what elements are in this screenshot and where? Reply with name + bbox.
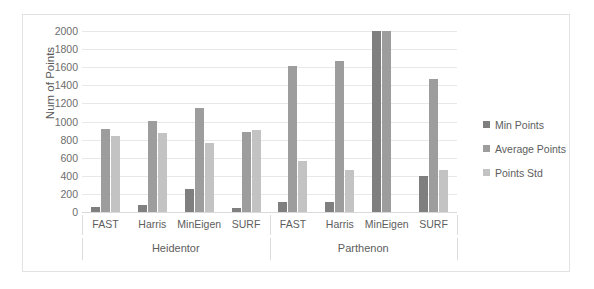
category-label: SURF	[410, 218, 457, 230]
group-label: Parthenon	[270, 242, 458, 254]
bar-group	[82, 31, 129, 212]
category-label: Harris	[316, 218, 363, 230]
y-axis-tick-labels: 2000180016001400120010008006004002000	[33, 31, 78, 212]
bar-group	[176, 31, 223, 212]
y-axis-tick-label: 600	[38, 153, 78, 163]
group-label: Heidentor	[82, 242, 270, 254]
axis-group-separator	[457, 238, 458, 260]
y-axis-tick-label: 0	[38, 207, 78, 217]
bar	[419, 176, 428, 212]
bar-group	[316, 31, 363, 212]
bar	[288, 66, 297, 212]
bar	[148, 121, 157, 212]
bar-group	[129, 31, 176, 212]
bar	[185, 189, 194, 212]
category-axis-labels: FASTHarrisMinEigenSURFFASTHarrisMinEigen…	[82, 215, 457, 235]
y-axis-tick-label: 800	[38, 135, 78, 145]
y-axis-tick-label: 1800	[38, 44, 78, 54]
bar-group	[223, 31, 270, 212]
plot-area	[82, 31, 457, 212]
chart-frame: Num of Points 20001800160014001200100080…	[22, 14, 570, 272]
chart-legend: Min Points Average Points Points Std	[483, 119, 578, 191]
category-label: FAST	[82, 218, 129, 230]
category-label: MinEigen	[363, 218, 410, 230]
y-axis-tick-label: 400	[38, 171, 78, 181]
bar	[372, 31, 381, 212]
legend-item-points-std[interactable]: Points Std	[483, 167, 578, 178]
legend-label: Min Points	[495, 119, 544, 131]
y-axis-tick-label: 1600	[38, 62, 78, 72]
axis-group-separator	[270, 238, 271, 260]
bar-group	[270, 31, 317, 212]
legend-item-average-points[interactable]: Average Points	[483, 143, 578, 154]
legend-swatch-icon	[483, 145, 490, 152]
axis-tick-separator	[82, 215, 83, 235]
group-axis-labels: HeidentorParthenon	[82, 238, 457, 260]
bar	[138, 205, 147, 212]
y-axis-tick-label: 2000	[38, 26, 78, 36]
legend-label: Points Std	[495, 167, 543, 179]
bar	[252, 130, 261, 212]
legend-swatch-icon	[483, 169, 490, 176]
bar	[195, 108, 204, 212]
bar	[335, 61, 344, 212]
bar	[158, 133, 167, 212]
y-axis-tick-label: 200	[38, 189, 78, 199]
y-axis-tick-label: 1200	[38, 98, 78, 108]
scan-artifact-band	[0, 0, 594, 10]
bar	[205, 143, 214, 212]
bar-group	[410, 31, 457, 212]
legend-swatch-icon	[483, 121, 490, 128]
bar	[111, 136, 120, 212]
axis-tick-separator	[457, 215, 458, 235]
bar	[382, 31, 391, 212]
axis-tick-separator	[270, 215, 271, 235]
category-label: SURF	[223, 218, 270, 230]
bar	[278, 202, 287, 212]
y-axis-tick-label: 1000	[38, 117, 78, 127]
bar	[429, 79, 438, 212]
legend-label: Average Points	[495, 143, 566, 155]
x-axis-line	[82, 212, 457, 213]
bar	[242, 132, 251, 212]
category-label: Harris	[129, 218, 176, 230]
bar	[439, 170, 448, 212]
axis-group-separator	[82, 238, 83, 260]
legend-item-min-points[interactable]: Min Points	[483, 119, 578, 130]
bar	[345, 170, 354, 212]
bar	[298, 161, 307, 212]
bar	[101, 129, 110, 212]
category-label: FAST	[270, 218, 317, 230]
bar-group	[363, 31, 410, 212]
y-axis-tick-label: 1400	[38, 80, 78, 90]
bar	[325, 202, 334, 212]
category-label: MinEigen	[176, 218, 223, 230]
